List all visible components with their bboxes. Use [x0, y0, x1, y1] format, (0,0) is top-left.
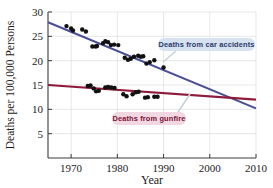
data-point: [152, 58, 156, 62]
data-point: [112, 42, 116, 46]
chart-figure: Deaths from car accidentsDeaths from gun…: [0, 0, 273, 188]
data-point: [97, 89, 101, 93]
x-tick-label: 1970: [60, 162, 83, 174]
data-point: [112, 86, 116, 90]
gunfire-label-text: Deaths from gunfire: [112, 114, 185, 123]
y-tick-label: 15: [32, 79, 44, 91]
y-tick-label: 25: [32, 30, 44, 42]
data-point: [161, 65, 165, 69]
data-point: [147, 60, 151, 64]
data-point: [124, 94, 128, 98]
data-point: [155, 94, 159, 98]
car-accidents-label: Deaths from car accidents: [158, 38, 255, 51]
car-accidents-label-text: Deaths from car accidents: [158, 40, 254, 49]
y-tick-label: 10: [32, 103, 44, 115]
y-axis-title: Deaths per 100,000 Persons: [4, 20, 17, 149]
scatter-chart: Deaths from car accidentsDeaths from gun…: [0, 0, 273, 188]
data-point: [116, 43, 120, 47]
y-tick-label: 5: [38, 128, 44, 140]
x-tick-label: 2010: [245, 162, 268, 174]
gunfire-label: Deaths from gunfire: [112, 112, 186, 125]
data-point: [84, 29, 88, 33]
data-point: [71, 28, 75, 32]
x-tick-label: 2000: [199, 162, 222, 174]
y-tick-label: 30: [32, 6, 44, 18]
x-axis-title: Year: [141, 173, 163, 187]
data-point: [146, 95, 150, 99]
x-tick-label: 1980: [106, 162, 129, 174]
y-tick-label: 20: [32, 55, 44, 67]
data-point: [141, 54, 145, 58]
data-point: [64, 24, 68, 28]
data-point: [136, 90, 140, 94]
data-point: [95, 44, 99, 48]
data-point: [132, 55, 136, 59]
